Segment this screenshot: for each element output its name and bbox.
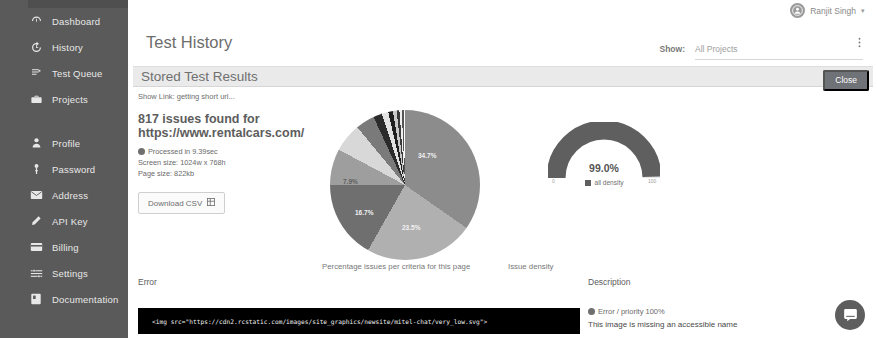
processed-time-row: Processed in 9.39sec (138, 146, 226, 157)
stored-results-bar: Stored Test Results Close (133, 66, 873, 87)
sidebar-item-label: Projects (52, 94, 88, 105)
show-filter-label: Show: (660, 44, 686, 54)
gauge-min-tick: 0 (552, 178, 555, 184)
error-description: This image is missing an accessible name (588, 320, 828, 329)
briefcase-icon (28, 92, 44, 106)
show-filter: Show: All Projects (660, 38, 864, 60)
legend-swatch-icon (585, 180, 591, 186)
error-priority: Error / priority 100% (598, 307, 665, 316)
sidebar-item-label: History (52, 42, 83, 53)
error-priority-row: Error / priority 100% (588, 307, 828, 316)
tested-url: https://www.rentalcars.com/ (138, 126, 318, 140)
sidebar-item-profile[interactable]: Profile (0, 130, 128, 156)
sidebar-item-label: API Key (52, 216, 88, 227)
sidebar-item-api-key[interactable]: API Key (0, 208, 128, 234)
sidebar-item-label: Profile (52, 138, 80, 149)
book-icon (28, 292, 44, 306)
issues-count-line: 817 issues found for (138, 112, 318, 126)
gauge-max-tick: 100 (648, 178, 656, 184)
sidebar: Dashboard History Test Queue Projects (0, 0, 128, 338)
gauge-legend: all density (548, 179, 660, 186)
key-icon (28, 162, 44, 176)
download-csv-label: Download CSV (148, 199, 202, 208)
chevron-down-icon (858, 37, 861, 49)
download-csv-button[interactable]: Download CSV (138, 192, 225, 214)
sidebar-top-strip (28, 0, 128, 8)
user-avatar-icon (790, 3, 805, 18)
user-menu[interactable]: Ranjit Singh ▾ (790, 3, 865, 18)
column-header-error: Error (138, 277, 157, 287)
issues-summary: 817 issues found for https://www.rentalc… (138, 112, 318, 140)
gauge-legend-label: all density (595, 179, 624, 186)
sidebar-item-documentation[interactable]: Documentation (0, 286, 128, 312)
pie-slice-label: 23.5% (402, 224, 420, 231)
sidebar-item-projects[interactable]: Projects (0, 86, 128, 112)
pen-icon (28, 214, 44, 228)
page-title: Test History (146, 33, 232, 52)
pie-slice-label: 34.7% (418, 152, 436, 159)
envelope-icon (28, 188, 44, 202)
sidebar-item-label: Password (52, 164, 95, 175)
chat-bubble-icon[interactable] (835, 300, 865, 330)
sidebar-item-address[interactable]: Address (0, 182, 128, 208)
sidebar-item-label: Dashboard (52, 16, 100, 27)
clock-icon (138, 148, 145, 155)
queue-icon (28, 66, 44, 80)
project-select-value: All Projects (695, 44, 738, 54)
sidebar-item-settings[interactable]: Settings (0, 260, 128, 286)
page-size: Page size: 822kb (138, 168, 226, 179)
error-code-snippet: <img src="https://cdn2.rcstatic.com/imag… (138, 308, 580, 334)
error-icon (588, 308, 595, 315)
column-header-description: Description (588, 277, 631, 287)
table-icon (207, 198, 215, 208)
person-icon (28, 136, 44, 150)
screen-size: Screen size: 1024w x 768h (138, 157, 226, 168)
short-url-status: Show Link: getting short url... (138, 92, 235, 101)
issue-density-gauge: 99.0% all density 0 100 (548, 122, 660, 192)
sidebar-item-dashboard[interactable]: Dashboard (0, 8, 128, 34)
project-select[interactable]: All Projects (695, 38, 863, 60)
sidebar-item-history[interactable]: History (0, 34, 128, 60)
pie-slice-label: 16.7% (355, 209, 373, 216)
pie-chart-caption: Percentage issues per criteria for this … (322, 262, 470, 271)
user-name: Ranjit Singh (810, 6, 856, 16)
gauge-icon (28, 14, 44, 28)
processed-time: Processed in 9.39sec (148, 147, 218, 156)
pie-graphic (330, 110, 480, 260)
gauge-value: 99.0% (548, 162, 660, 174)
criteria-pie-chart: 34.7% 23.5% 16.7% 7.9% (330, 110, 482, 260)
topbar: Ranjit Singh ▾ (128, 0, 877, 22)
sidebar-item-label: Address (52, 190, 88, 201)
sidebar-item-password[interactable]: Password (0, 156, 128, 182)
sidebar-item-test-queue[interactable]: Test Queue (0, 60, 128, 86)
chevron-down-icon: ▾ (861, 7, 865, 15)
sidebar-item-label: Billing (52, 242, 79, 253)
sliders-icon (28, 266, 44, 280)
stored-results-title: Stored Test Results (141, 69, 258, 84)
app-root: Dashboard History Test Queue Projects (0, 0, 877, 338)
close-button[interactable]: Close (823, 70, 869, 91)
test-meta: Processed in 9.39sec Screen size: 1024w … (138, 146, 226, 179)
sidebar-item-label: Documentation (52, 294, 119, 305)
gauge-caption: Issue density (508, 262, 554, 271)
sidebar-divider-gap (0, 112, 128, 130)
card-icon (28, 240, 44, 254)
sidebar-item-label: Test Queue (52, 68, 103, 79)
sidebar-item-label: Settings (52, 268, 88, 279)
sidebar-item-billing[interactable]: Billing (0, 234, 128, 260)
history-icon (28, 40, 44, 54)
pie-slice-label: 7.9% (343, 178, 358, 185)
error-description-cell: Error / priority 100% This image is miss… (588, 307, 828, 329)
